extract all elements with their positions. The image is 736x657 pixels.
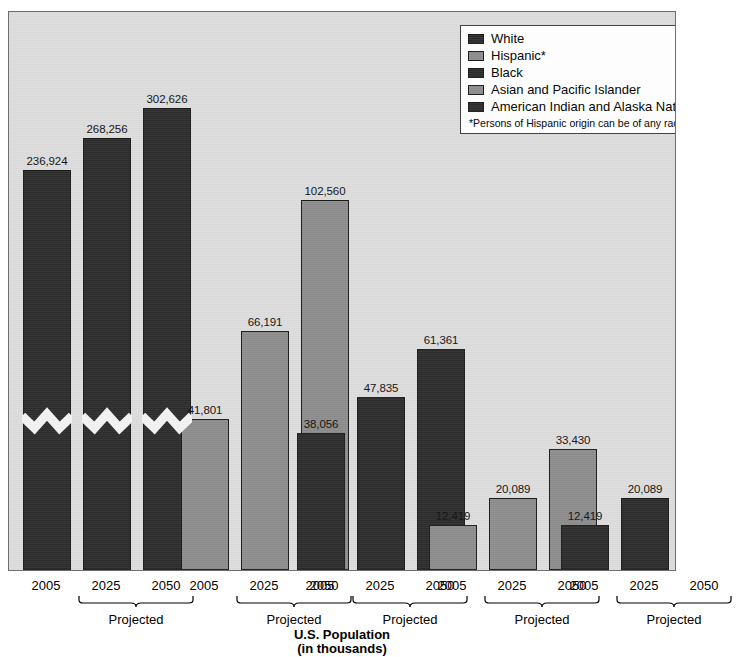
- legend-label: Asian and Pacific Islander: [491, 83, 641, 97]
- projected-brace-icon: [616, 596, 732, 608]
- projected-label: Projected: [596, 612, 736, 627]
- legend-item-black[interactable]: Black: [468, 65, 676, 81]
- bar[interactable]: [429, 525, 477, 570]
- bar-value-label: 66,191: [230, 316, 300, 328]
- legend-swatch-icon: [468, 68, 484, 78]
- bar-value-label: 20,089: [478, 483, 548, 495]
- bar-value-label: 102,560: [290, 185, 360, 197]
- legend-label: Black: [491, 66, 523, 80]
- legend-swatch-icon: [468, 102, 484, 112]
- legend-swatch-icon: [468, 34, 484, 44]
- bar-value-label: 12,419: [418, 510, 488, 522]
- bar-value-label: 38,056: [286, 418, 356, 430]
- projected-label: Projected: [58, 612, 214, 627]
- bar[interactable]: [297, 433, 345, 570]
- bar[interactable]: [181, 419, 229, 570]
- legend-label: White: [491, 32, 524, 46]
- bar-value-label: 33,430: [670, 434, 676, 446]
- bar[interactable]: [489, 498, 537, 570]
- bar-value-label: 302,626: [132, 93, 202, 105]
- bar-value-label: 41,801: [170, 404, 240, 416]
- legend-footnote: *Persons of Hispanic origin can be of an…: [469, 117, 676, 129]
- caption-line-2: (in thousands): [0, 642, 684, 656]
- bar[interactable]: [621, 498, 669, 570]
- plot-area: 236,924268,256302,62641,80166,191102,560…: [8, 11, 676, 571]
- bar[interactable]: [561, 525, 609, 570]
- bar-value-label: 61,361: [406, 334, 476, 346]
- projected-brace-icon: [484, 596, 600, 608]
- legend-swatch-icon: [468, 51, 484, 61]
- legend-label: American Indian and Alaska Natives: [491, 100, 676, 114]
- bar-value-label: 47,835: [346, 382, 416, 394]
- caption-line-1: U.S. Population: [0, 628, 684, 642]
- bar[interactable]: [241, 331, 289, 570]
- bar-value-label: 236,924: [12, 155, 82, 167]
- projected-brace-icon: [236, 596, 352, 608]
- legend-item-american-indian-alaska-natives[interactable]: American Indian and Alaska Natives: [468, 99, 676, 115]
- bar-value-label: 20,089: [610, 483, 676, 495]
- legend-item-white[interactable]: White: [468, 31, 676, 47]
- bar-value-label: 12,419: [550, 510, 620, 522]
- bar-value-label: 33,430: [538, 434, 608, 446]
- bar[interactable]: [357, 397, 405, 570]
- bar-value-label: 268,256: [72, 123, 142, 135]
- projected-brace-icon: [352, 596, 468, 608]
- bar[interactable]: [23, 170, 71, 570]
- legend-item-hispanic[interactable]: Hispanic*: [468, 48, 676, 64]
- legend-item-asian-pacific-islander[interactable]: Asian and Pacific Islander: [468, 82, 676, 98]
- legend: White Hispanic* Black Asian and Pacific …: [460, 25, 676, 134]
- legend-swatch-icon: [468, 85, 484, 95]
- projected-brace-icon: [78, 596, 194, 608]
- legend-label: Hispanic*: [491, 49, 546, 63]
- bar[interactable]: [83, 138, 131, 570]
- chart-caption: U.S. Population (in thousands): [0, 628, 684, 656]
- x-tick-label: 2050: [669, 578, 736, 593]
